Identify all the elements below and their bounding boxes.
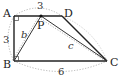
label-bc-length: 6: [58, 66, 64, 75]
trapezoid-diagram: A D B C P 3 3 6 b c: [0, 0, 120, 75]
label-c: C: [110, 56, 118, 69]
label-d: D: [64, 7, 73, 20]
point-p: [39, 14, 42, 17]
segment-pc: [41, 16, 107, 61]
label-ap-length: 3: [37, 0, 43, 11]
label-pc: c: [68, 40, 74, 51]
label-b: B: [3, 58, 11, 71]
edge-dc: [62, 16, 107, 61]
label-ab-length: 3: [3, 34, 9, 45]
label-a: A: [2, 7, 12, 20]
label-p: P: [37, 19, 45, 32]
label-bp: b: [21, 29, 27, 40]
dotted-line-pc: [41, 19, 107, 62]
